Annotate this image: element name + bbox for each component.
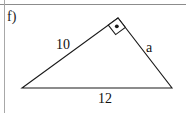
right-triangle-diagram xyxy=(0,0,186,113)
figure-canvas: f) 10 a 12 xyxy=(0,0,186,113)
side-label-right: a xyxy=(146,41,152,55)
side-label-base: 12 xyxy=(98,92,112,106)
right-angle-dot-icon xyxy=(115,24,119,28)
side-label-left: 10 xyxy=(56,38,70,52)
